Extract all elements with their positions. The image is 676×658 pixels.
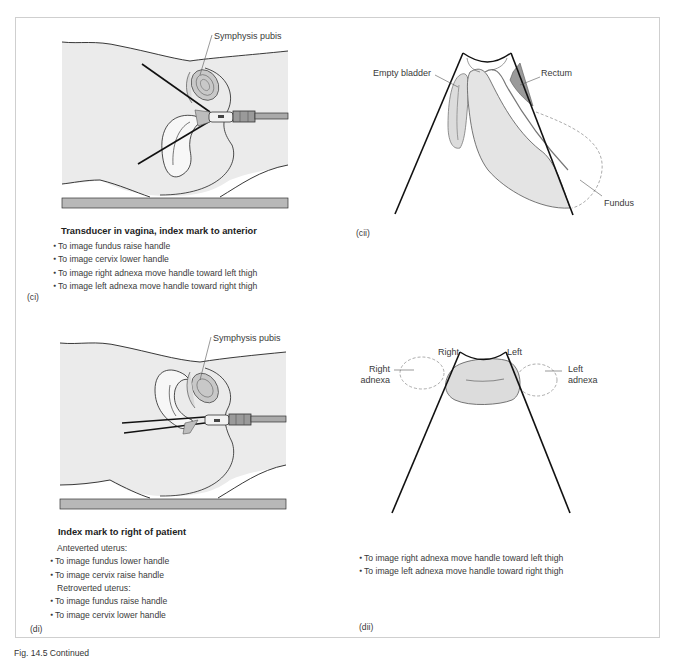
- group-title-retroverted: Retroverted uterus:: [50, 582, 169, 595]
- panel-di-heading: Index mark to right of patient: [58, 527, 186, 537]
- list-item: To image cervix lower handle: [53, 253, 257, 266]
- label-right-adnexa: Right adnexa: [360, 364, 390, 386]
- transvaginal-sagittal-scan-view: [340, 0, 676, 320]
- list-item: To image cervix lower handle: [50, 609, 169, 622]
- label-fundus: Fundus: [604, 198, 634, 209]
- list-item: To image right adnexa move handle toward…: [53, 267, 257, 280]
- label-left-adnexa: Left adnexa: [568, 364, 598, 386]
- panel-di-id: (di): [30, 624, 42, 634]
- panel-cii-id: (cii): [356, 228, 370, 238]
- figure-caption: Fig. 14.5 Continued: [14, 648, 89, 658]
- list-item: To image left adnexa move handle toward …: [359, 565, 563, 578]
- panel-di-instructions: Anteverted uterus: To image fundus lower…: [50, 542, 169, 622]
- label-right: Right: [438, 347, 459, 358]
- transvaginal-transverse-illustration: [0, 320, 340, 520]
- label-left: Left: [507, 347, 522, 358]
- list-item: To image cervix raise handle: [50, 569, 169, 582]
- label-rectum: Rectum: [541, 68, 572, 79]
- group-title-anteverted: Anteverted uterus:: [50, 542, 169, 555]
- panel-ci-bullets: To image fundus raise handle To image ce…: [53, 240, 257, 294]
- label-symphysis-pubis: Symphysis pubis: [213, 333, 281, 344]
- panel-ci: Symphysis pubis Transducer in vagina, in…: [0, 0, 340, 320]
- list-item: To image left adnexa move handle toward …: [53, 280, 257, 293]
- panel-cii: Empty bladder Rectum Fundus (cii): [340, 0, 676, 320]
- label-symphysis-pubis: Symphysis pubis: [214, 31, 282, 42]
- panel-ci-heading: Transducer in vagina, index mark to ante…: [61, 226, 257, 236]
- label-empty-bladder: Empty bladder: [373, 68, 431, 79]
- panel-di: Symphysis pubis Index mark to right of p…: [0, 320, 340, 640]
- list-item: To image right adnexa move handle toward…: [359, 552, 563, 565]
- panel-dii-id: (dii): [359, 622, 373, 632]
- list-item: To image fundus raise handle: [50, 595, 169, 608]
- panel-dii: Right Left Right adnexa Left adnexa To i…: [340, 320, 676, 640]
- panel-dii-bullets: To image right adnexa move handle toward…: [359, 552, 563, 579]
- list-item: To image fundus raise handle: [53, 240, 257, 253]
- panel-ci-id: (ci): [27, 292, 39, 302]
- list-item: To image fundus lower handle: [50, 555, 169, 568]
